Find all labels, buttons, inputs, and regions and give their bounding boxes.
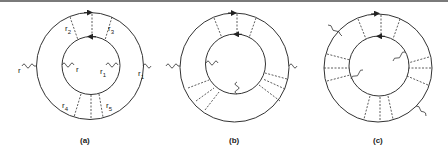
label-r5: r5 (106, 101, 113, 112)
external-photon-right (289, 64, 297, 68)
label-r1-inner: r1 (100, 67, 107, 78)
rung (388, 96, 393, 119)
rung (196, 88, 214, 101)
rung (214, 18, 222, 38)
rung (249, 18, 256, 38)
external-photon-right (143, 64, 151, 68)
caption-b: (b) (229, 136, 240, 145)
panel-c: (c) (324, 14, 432, 146)
rung (364, 96, 370, 119)
internal-photon-left (351, 70, 363, 79)
panel-b: (b) (166, 13, 297, 145)
inner-loop (349, 36, 409, 96)
inner-loop (62, 37, 120, 95)
rung (265, 73, 287, 79)
label-r2: r2 (65, 24, 72, 35)
outer-loop (180, 13, 289, 122)
caption-a: (a) (80, 136, 90, 145)
internal-photon-right (393, 52, 405, 61)
rung (407, 76, 428, 85)
internal-photon-bottom (235, 82, 239, 94)
internal-photon-right (106, 63, 118, 67)
label-r4: r4 (62, 101, 69, 112)
external-photon-bottom-right (416, 106, 426, 116)
panel-a: r r r1 r1 r2 r3 r4 r5 (a) (18, 13, 151, 146)
rung (358, 19, 366, 39)
external-photon-top-left (328, 25, 342, 36)
internal-photon-left (62, 63, 74, 67)
outer-loop (37, 13, 144, 120)
outer-arrow-icon (371, 14, 377, 15)
rung (408, 57, 429, 63)
internal-photon-left (206, 61, 218, 65)
external-photon-left (166, 64, 180, 68)
external-photon-left (22, 64, 36, 68)
rung (327, 75, 350, 81)
rung (393, 19, 400, 39)
rung (259, 85, 280, 101)
rung (263, 79, 285, 89)
label-r-inner: r (76, 65, 79, 74)
rung (74, 94, 81, 117)
rung (99, 94, 103, 117)
label-r3: r3 (108, 24, 115, 35)
rung (205, 92, 219, 110)
label-r-outer-left: r (18, 66, 21, 75)
caption-c: (c) (373, 136, 383, 145)
rung (327, 54, 350, 60)
rung (70, 17, 78, 40)
feynman-diagram-figure: r r r1 r1 r2 r3 r4 r5 (a) (b) (0, 0, 448, 157)
rung (188, 80, 209, 88)
